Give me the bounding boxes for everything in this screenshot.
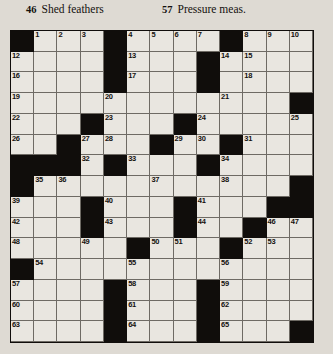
grid-cell[interactable]: [57, 52, 80, 73]
grid-cell[interactable]: [174, 93, 197, 114]
grid-cell[interactable]: 44: [197, 218, 220, 239]
grid-cell[interactable]: 32: [81, 155, 104, 176]
grid-cell[interactable]: [174, 301, 197, 322]
grid-cell[interactable]: [174, 155, 197, 176]
grid-cell[interactable]: 21: [220, 93, 243, 114]
grid-cell[interactable]: [243, 93, 266, 114]
grid-cell[interactable]: [104, 259, 127, 280]
grid-cell[interactable]: [57, 259, 80, 280]
grid-cell[interactable]: 9: [267, 31, 290, 52]
grid-cell[interactable]: 55: [127, 259, 150, 280]
grid-cell[interactable]: [57, 301, 80, 322]
grid-cell[interactable]: [267, 155, 290, 176]
grid-cell[interactable]: [150, 218, 173, 239]
grid-cell[interactable]: [127, 176, 150, 197]
grid-cell[interactable]: 65: [220, 321, 243, 342]
grid-cell[interactable]: 38: [220, 176, 243, 197]
grid-cell[interactable]: [220, 218, 243, 239]
grid-cell[interactable]: [57, 280, 80, 301]
grid-cell[interactable]: 5: [150, 31, 173, 52]
grid-cell[interactable]: [57, 114, 80, 135]
grid-cell[interactable]: 28: [104, 135, 127, 156]
grid-cell[interactable]: 47: [290, 218, 313, 239]
grid-cell[interactable]: [81, 52, 104, 73]
grid-cell[interactable]: 30: [197, 135, 220, 156]
grid-cell[interactable]: 64: [127, 321, 150, 342]
grid-cell[interactable]: [57, 238, 80, 259]
grid-cell[interactable]: 41: [197, 197, 220, 218]
grid-cell[interactable]: [290, 72, 313, 93]
grid-cell[interactable]: 3: [81, 31, 104, 52]
grid-cell[interactable]: [220, 72, 243, 93]
grid-cell[interactable]: [267, 176, 290, 197]
grid-cell[interactable]: 16: [11, 72, 34, 93]
grid-cell[interactable]: [290, 135, 313, 156]
grid-cell[interactable]: 53: [267, 238, 290, 259]
grid-cell[interactable]: [220, 197, 243, 218]
grid-cell[interactable]: [267, 114, 290, 135]
grid-cell[interactable]: 17: [127, 72, 150, 93]
grid-cell[interactable]: [243, 176, 266, 197]
grid-cell[interactable]: [220, 114, 243, 135]
grid-cell[interactable]: 18: [243, 72, 266, 93]
grid-cell[interactable]: [34, 135, 57, 156]
grid-cell[interactable]: 29: [174, 135, 197, 156]
grid-cell[interactable]: [243, 321, 266, 342]
grid-cell[interactable]: 43: [104, 218, 127, 239]
grid-cell[interactable]: [150, 114, 173, 135]
grid-cell[interactable]: [57, 197, 80, 218]
grid-cell[interactable]: [81, 301, 104, 322]
grid-cell[interactable]: [197, 238, 220, 259]
grid-cell[interactable]: [127, 135, 150, 156]
grid-cell[interactable]: [57, 218, 80, 239]
grid-cell[interactable]: [34, 321, 57, 342]
grid-cell[interactable]: [267, 321, 290, 342]
grid-cell[interactable]: 12: [11, 52, 34, 73]
grid-cell[interactable]: [290, 238, 313, 259]
grid-cell[interactable]: [34, 218, 57, 239]
grid-cell[interactable]: 35: [34, 176, 57, 197]
grid-cell[interactable]: 20: [104, 93, 127, 114]
grid-cell[interactable]: [34, 72, 57, 93]
grid-cell[interactable]: [150, 259, 173, 280]
grid-cell[interactable]: [197, 93, 220, 114]
grid-cell[interactable]: 57: [11, 280, 34, 301]
grid-cell[interactable]: [243, 280, 266, 301]
grid-cell[interactable]: [127, 197, 150, 218]
grid-cell[interactable]: 10: [290, 31, 313, 52]
grid-cell[interactable]: 61: [127, 301, 150, 322]
grid-cell[interactable]: 33: [127, 155, 150, 176]
grid-cell[interactable]: [127, 218, 150, 239]
grid-cell[interactable]: [267, 301, 290, 322]
grid-cell[interactable]: [34, 93, 57, 114]
grid-cell[interactable]: 56: [220, 259, 243, 280]
grid-cell[interactable]: [267, 259, 290, 280]
grid-cell[interactable]: 50: [150, 238, 173, 259]
grid-cell[interactable]: [127, 93, 150, 114]
grid-cell[interactable]: [34, 280, 57, 301]
grid-cell[interactable]: 1: [34, 31, 57, 52]
grid-cell[interactable]: [174, 72, 197, 93]
grid-cell[interactable]: [290, 301, 313, 322]
grid-cell[interactable]: [81, 72, 104, 93]
grid-cell[interactable]: [150, 321, 173, 342]
grid-cell[interactable]: [290, 155, 313, 176]
grid-cell[interactable]: [34, 114, 57, 135]
grid-cell[interactable]: 2: [57, 31, 80, 52]
grid-cell[interactable]: 15: [243, 52, 266, 73]
grid-cell[interactable]: [150, 280, 173, 301]
grid-cell[interactable]: [174, 321, 197, 342]
grid-cell[interactable]: 42: [11, 218, 34, 239]
grid-cell[interactable]: [267, 135, 290, 156]
grid-cell[interactable]: 26: [11, 135, 34, 156]
grid-cell[interactable]: [290, 280, 313, 301]
grid-cell[interactable]: [267, 280, 290, 301]
grid-cell[interactable]: 27: [81, 135, 104, 156]
grid-cell[interactable]: 19: [11, 93, 34, 114]
grid-cell[interactable]: 63: [11, 321, 34, 342]
grid-cell[interactable]: [243, 301, 266, 322]
grid-cell[interactable]: 6: [174, 31, 197, 52]
grid-cell[interactable]: [267, 72, 290, 93]
grid-cell[interactable]: 59: [220, 280, 243, 301]
grid-cell[interactable]: [243, 155, 266, 176]
